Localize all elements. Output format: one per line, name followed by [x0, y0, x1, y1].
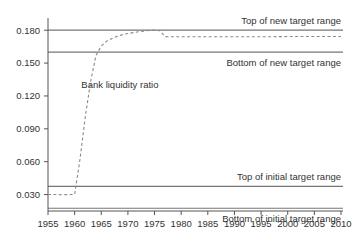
x-tick-label-1980: 1980 [171, 218, 192, 229]
y-tick-label-0180: 0.180 [16, 25, 40, 36]
y-tick-label-0060: 0.060 [16, 156, 40, 167]
x-tick-label-1985: 1985 [197, 218, 218, 229]
x-tick-label-1970: 1970 [117, 218, 138, 229]
y-tick-label-0150: 0.150 [16, 57, 40, 68]
annotation-bottom-of-initial-target-range: Bottom of initial target range [222, 213, 341, 224]
annotation-top-of-new-target-range: Top of new target range [241, 15, 341, 26]
chart-background [0, 0, 354, 249]
y-tick-label-0120: 0.120 [16, 90, 40, 101]
chart-container: 0.180 0.150 0.120 0.090 0.060 0.030 1955… [0, 0, 354, 249]
annotation-top-of-initial-target-range: Top of initial target range [237, 171, 341, 182]
liquidity-ratio-chart: 0.180 0.150 0.120 0.090 0.060 0.030 1955… [0, 0, 354, 249]
y-tick-label-0090: 0.090 [16, 123, 40, 134]
x-tick-label-1975: 1975 [144, 218, 165, 229]
x-tick-label-1955: 1955 [37, 218, 58, 229]
annotation-series-label: Bank liquidity ratio [81, 79, 158, 90]
y-tick-label-0030: 0.030 [16, 189, 40, 200]
x-tick-label-1965: 1965 [91, 218, 112, 229]
annotation-bottom-of-new-target-range: Bottom of new target range [226, 57, 341, 68]
x-tick-label-1960: 1960 [64, 218, 85, 229]
